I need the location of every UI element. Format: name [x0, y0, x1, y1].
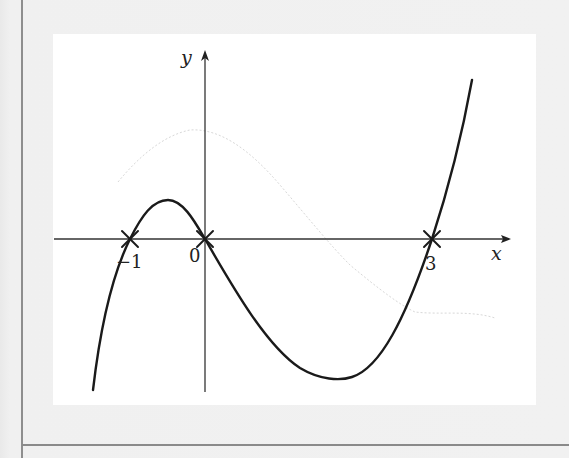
bleed-through-artifact	[118, 130, 495, 318]
cubic-curve	[93, 80, 472, 390]
x-axis-label: x	[491, 242, 502, 264]
y-axis-label: y	[180, 46, 192, 68]
axes	[54, 56, 506, 392]
root-label-minus-one: −1	[116, 251, 143, 272]
cubic-graph: y x −1 0 3	[0, 0, 569, 458]
root-label-three: 3	[425, 253, 436, 274]
root-label-zero: 0	[189, 245, 200, 266]
